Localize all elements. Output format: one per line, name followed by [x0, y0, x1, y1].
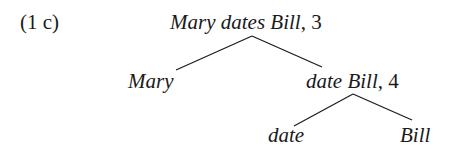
edge-root-to-datebill — [252, 36, 322, 67]
edge-root-to-mary — [176, 36, 252, 70]
tree-edges — [0, 0, 455, 154]
edge-datebill-to-date — [294, 94, 353, 126]
edge-datebill-to-bill — [353, 94, 412, 120]
